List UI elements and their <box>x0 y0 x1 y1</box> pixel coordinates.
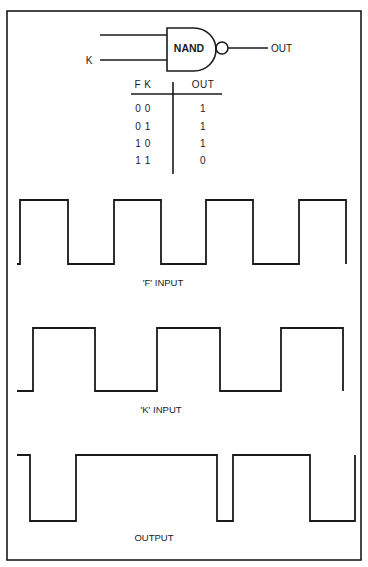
input-k-label: K <box>86 55 93 66</box>
inversion-bubble-icon <box>216 42 228 54</box>
truth-table: F K OUT 0 0 1 0 1 1 1 0 1 1 1 0 <box>131 79 222 174</box>
output-square-wave <box>17 455 355 521</box>
row-inputs: 0 1 <box>135 121 150 132</box>
nand-timing-diagram: K NAND OUT F K OUT 0 0 1 0 1 1 1 0 1 1 1 <box>0 0 368 567</box>
row-inputs: 1 0 <box>135 138 150 149</box>
gate-type-label: NAND <box>174 42 205 54</box>
row-output: 0 <box>200 155 206 166</box>
k-input-square-wave <box>17 328 343 391</box>
k-input-label: 'K' INPUT <box>140 404 181 415</box>
waveform-f-input: 'F' INPUT <box>17 200 346 288</box>
f-input-square-wave <box>17 200 346 264</box>
row-output: 1 <box>200 103 206 114</box>
waveform-k-input: 'K' INPUT <box>17 328 343 415</box>
row-output: 1 <box>200 138 206 149</box>
output-label: OUT <box>271 43 292 54</box>
row-output: 1 <box>200 121 206 132</box>
truth-table-row: 1 0 1 <box>135 138 206 149</box>
truth-table-row: 0 1 1 <box>135 121 206 132</box>
row-inputs: 1 1 <box>135 155 150 166</box>
truth-table-header-output: OUT <box>192 79 215 90</box>
truth-table-header-inputs: F K <box>134 79 151 90</box>
row-inputs: 0 0 <box>135 103 150 114</box>
nand-gate: K NAND OUT <box>86 28 292 71</box>
truth-table-row: 1 1 0 <box>135 155 206 166</box>
f-input-label: 'F' INPUT <box>143 277 184 288</box>
truth-table-row: 0 0 1 <box>135 103 206 114</box>
output-waveform-label: OUTPUT <box>134 532 173 543</box>
waveform-output: OUTPUT <box>17 455 355 543</box>
